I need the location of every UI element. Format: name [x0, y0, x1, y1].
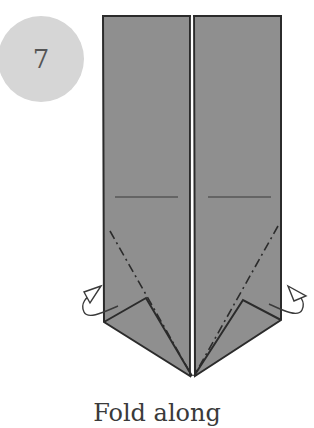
instruction-caption: Fold along [0, 398, 314, 428]
right-panel [194, 16, 281, 376]
left-panel [103, 16, 190, 376]
